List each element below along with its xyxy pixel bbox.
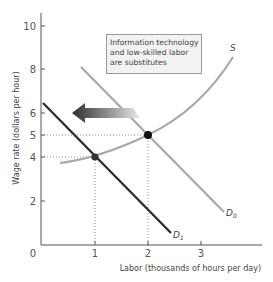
d0-label: D0 bbox=[226, 208, 237, 219]
annotation-line-2: and low-skilled labor bbox=[110, 48, 198, 58]
demand-curve-d0 bbox=[81, 67, 224, 212]
y-tick-6: 6 bbox=[30, 108, 36, 119]
initial-equilibrium-point bbox=[144, 131, 152, 139]
shift-left-arrow-icon bbox=[72, 103, 140, 123]
y-ticks: 10 8 6 5 4 2 bbox=[23, 21, 45, 207]
x-axis-label: Labor (thousands of hours per day) bbox=[120, 264, 261, 273]
y-tick-5: 5 bbox=[30, 130, 36, 141]
annotation-line-3: are substitutes bbox=[110, 58, 198, 68]
y-tick-4: 4 bbox=[30, 152, 36, 163]
chart-container: 10 8 6 5 4 2 0 1 2 3 Labor (thousands of… bbox=[0, 0, 273, 282]
demand-curve-d1 bbox=[43, 103, 171, 233]
guide-lines bbox=[41, 135, 148, 245]
x-tick-2: 2 bbox=[145, 248, 151, 259]
x-tick-3: 3 bbox=[198, 248, 204, 259]
new-equilibrium-point bbox=[91, 153, 98, 160]
svg-text:D1: D1 bbox=[173, 230, 184, 241]
annotation-line-1: Information technology bbox=[110, 38, 198, 48]
y-axis-label: Wage rate (dollars per hour) bbox=[12, 71, 21, 184]
annotation-box: Information technology and low-skilled l… bbox=[106, 34, 202, 74]
d1-label: D1 bbox=[173, 230, 184, 241]
y-tick-8: 8 bbox=[30, 64, 36, 75]
x-tick-1: 1 bbox=[92, 248, 98, 259]
y-tick-10: 10 bbox=[23, 21, 36, 32]
y-tick-2: 2 bbox=[30, 196, 36, 207]
x-tick-0: 0 bbox=[30, 248, 36, 259]
svg-text:D0: D0 bbox=[226, 208, 237, 219]
supply-label: S bbox=[230, 43, 236, 53]
x-ticks: 0 1 2 3 bbox=[30, 241, 204, 259]
